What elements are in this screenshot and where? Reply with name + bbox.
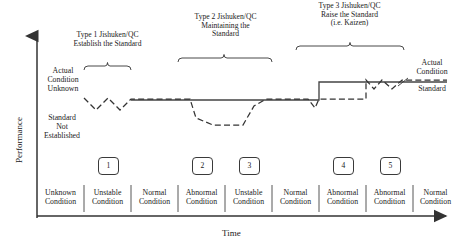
annotation-established: Established bbox=[36, 131, 88, 140]
bracket-type1 bbox=[84, 63, 131, 71]
annotation-not: Not bbox=[36, 122, 88, 131]
column-label-9-line2: Condition bbox=[413, 198, 458, 207]
column-label-1-line2: Condition bbox=[37, 198, 84, 207]
column-label-6-line2: Condition bbox=[272, 198, 319, 207]
bracket-type3 bbox=[296, 43, 404, 51]
legend-condition: Condition bbox=[406, 67, 458, 76]
column-label-6: Normal Condition bbox=[272, 189, 319, 207]
column-label-3: Normal Condition bbox=[131, 189, 178, 207]
bracket-title-type3-line3: (i.e. Kaizen) bbox=[297, 19, 402, 28]
annotation-actual-condition-unknown: Actual Condition Unknown bbox=[39, 66, 87, 94]
column-label-3-line2: Condition bbox=[131, 198, 178, 207]
legend-standard-label: Standard bbox=[406, 84, 458, 93]
diagram-canvas: Performance Time Type 1 Jishuken/QC Esta… bbox=[0, 0, 458, 247]
column-label-8: Abnormal Condition bbox=[366, 189, 413, 207]
x-axis-label: Time bbox=[222, 228, 241, 238]
phase-number-3[interactable]: 3 bbox=[239, 157, 260, 175]
legend-actual: Actual bbox=[406, 58, 458, 67]
bracket-title-type1: Type 1 Jishuken/QC Establish the Standar… bbox=[55, 31, 160, 48]
column-label-2-line2: Condition bbox=[84, 198, 131, 207]
actual-condition-line bbox=[84, 80, 447, 125]
phase-number-5[interactable]: 5 bbox=[380, 157, 401, 175]
column-label-8-line2: Condition bbox=[366, 198, 413, 207]
phase-number-4[interactable]: 4 bbox=[333, 157, 354, 175]
column-label-4: Abnormal Condition bbox=[178, 189, 225, 207]
legend-standard: Standard bbox=[406, 84, 458, 93]
bracket-title-type2-line3: Standard bbox=[173, 30, 278, 39]
y-axis-label: Performance bbox=[14, 117, 24, 163]
annotation-standard-not-established: Standard Not Established bbox=[36, 113, 88, 141]
phase-number-1[interactable]: 1 bbox=[98, 157, 119, 175]
bracket-title-type1-line2: Establish the Standard bbox=[55, 40, 160, 49]
annotation-standard: Standard bbox=[36, 113, 88, 122]
annotation-actual: Actual bbox=[39, 66, 87, 75]
bracket-type2 bbox=[178, 55, 272, 63]
legend-actual-condition: Actual Condition bbox=[406, 58, 458, 77]
bracket-title-type2: Type 2 Jishuken/QC Maintaining the Stand… bbox=[173, 13, 278, 39]
column-label-9: Normal Condition bbox=[413, 189, 458, 207]
column-label-4-line2: Condition bbox=[178, 198, 225, 207]
annotation-unknown: Unknown bbox=[39, 84, 87, 93]
phase-number-2[interactable]: 2 bbox=[192, 157, 213, 175]
column-label-5: Unstable Condition bbox=[225, 189, 272, 207]
column-label-7: Abnormal Condition bbox=[319, 189, 366, 207]
annotation-condition: Condition bbox=[39, 75, 87, 84]
column-label-5-line2: Condition bbox=[225, 198, 272, 207]
column-label-7-line2: Condition bbox=[319, 198, 366, 207]
column-label-2: Unstable Condition bbox=[84, 189, 131, 207]
column-label-1: Unknown Condition bbox=[37, 189, 84, 207]
bracket-title-type3: Type 3 Jishuken/QC Raise the Standard (i… bbox=[297, 2, 402, 28]
